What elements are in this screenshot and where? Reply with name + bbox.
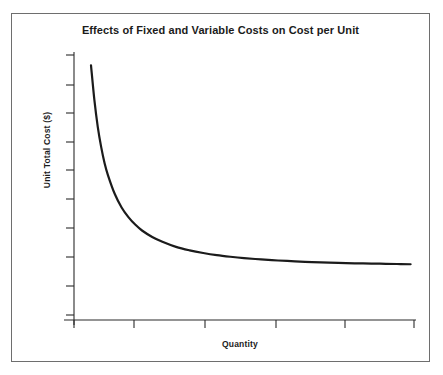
quantity-x-axis-group [64, 320, 416, 328]
plot-area [11, 13, 430, 362]
unit-total-cost-curve [91, 65, 411, 264]
y-axis-label: Unit Total Cost ($) [42, 70, 52, 230]
quantity-y-axis-group [66, 52, 74, 325]
plot-svg [11, 13, 430, 362]
chart-figure: Effects of Fixed and Variable Costs on C… [0, 0, 443, 375]
x-axis-label: Quantity [64, 339, 416, 349]
